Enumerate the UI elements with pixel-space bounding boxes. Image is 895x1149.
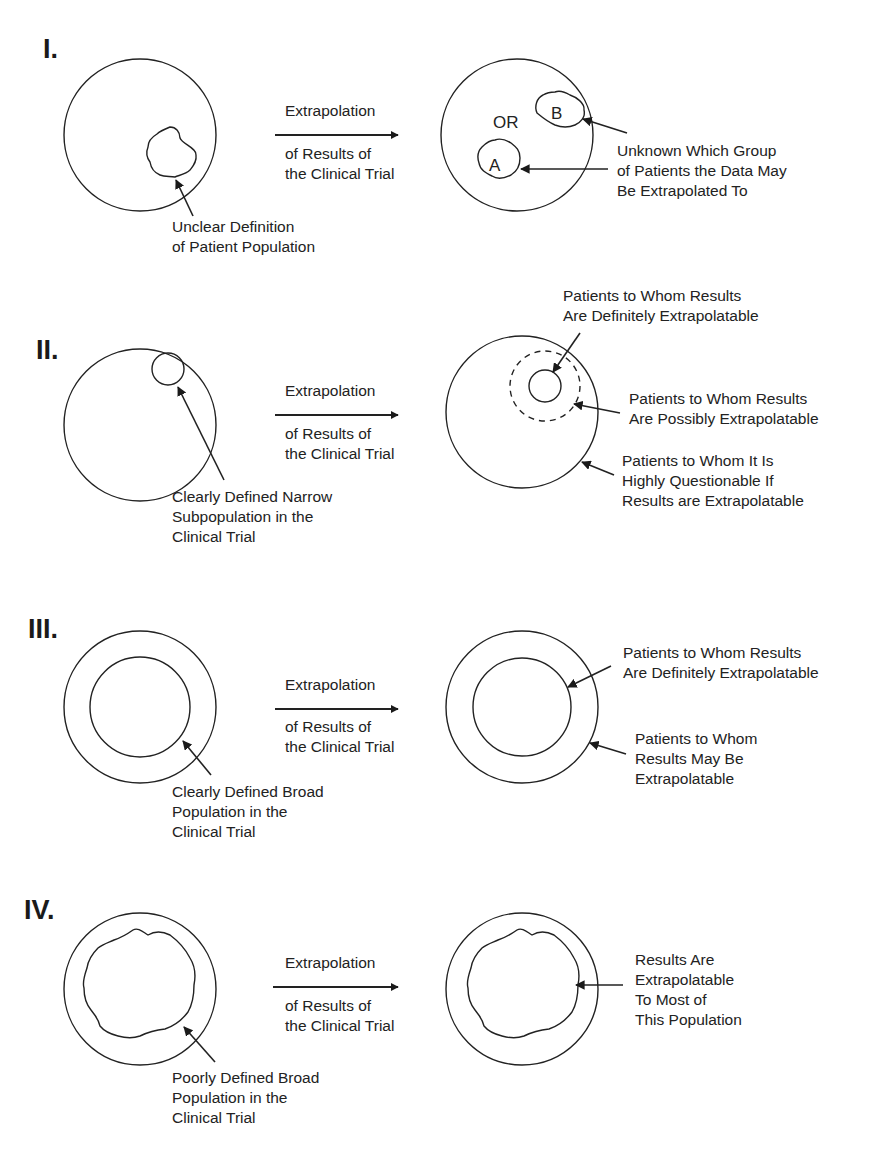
panel-1-graphics bbox=[64, 59, 627, 216]
panel-4-graphics bbox=[64, 913, 623, 1065]
target-population-circle bbox=[441, 59, 593, 211]
panel-numeral-3: III. bbox=[28, 614, 58, 645]
or-label: OR bbox=[493, 113, 519, 133]
may-be-extrapolatable-label: Patients to Whom Results May Be Extrapol… bbox=[635, 729, 757, 789]
unclear-population-blob bbox=[147, 127, 196, 177]
arrow-label-top: Extrapolation bbox=[285, 101, 375, 121]
broad-population-inner-circle bbox=[90, 657, 190, 757]
arrow-label-bottom: of Results of the Clinical Trial bbox=[285, 424, 394, 464]
possible-zone-dashed-circle bbox=[510, 351, 580, 421]
arrow-label-top: Extrapolation bbox=[285, 675, 375, 695]
target-inner-circle bbox=[473, 658, 571, 756]
pointer-arrow bbox=[583, 119, 627, 133]
left-caption: Clearly Defined Narrow Subpopulation in … bbox=[172, 487, 332, 547]
definite-zone-circle bbox=[529, 370, 561, 402]
population-outer-circle bbox=[64, 913, 216, 1065]
target-outer-circle bbox=[446, 631, 598, 783]
left-caption: Poorly Defined Broad Population in the C… bbox=[172, 1068, 319, 1128]
arrow-label-bottom: of Results of the Clinical Trial bbox=[285, 144, 394, 184]
population-circle bbox=[64, 59, 216, 211]
most-extrapolatable-label: Results Are Extrapolatable To Most of Th… bbox=[635, 950, 742, 1030]
pointer-arrow bbox=[582, 462, 614, 475]
arrow-label-top: Extrapolation bbox=[285, 381, 375, 401]
pointer-arrow bbox=[183, 741, 211, 775]
pointer-arrow bbox=[184, 1027, 215, 1062]
narrow-subpopulation-circle bbox=[152, 353, 184, 385]
group-a-label: A bbox=[489, 156, 500, 176]
population-circle bbox=[64, 349, 216, 501]
possibly-extrapolatable-label: Patients to Whom Results Are Possibly Ex… bbox=[629, 389, 819, 429]
population-outer-circle bbox=[64, 631, 216, 783]
target-outer-circle bbox=[446, 913, 598, 1065]
arrow-label-bottom: of Results of the Clinical Trial bbox=[285, 996, 394, 1036]
arrow-label-top: Extrapolation bbox=[285, 953, 375, 973]
pointer-arrow bbox=[574, 404, 620, 413]
left-caption: Clearly Defined Broad Population in the … bbox=[172, 782, 324, 842]
group-b-label: B bbox=[551, 104, 562, 124]
right-caption: Unknown Which Group of Patients the Data… bbox=[617, 141, 787, 201]
panel-3-graphics bbox=[64, 631, 626, 783]
questionable-extrapolatable-label: Patients to Whom It Is Highly Questionab… bbox=[622, 451, 804, 511]
poorly-defined-blob bbox=[83, 929, 195, 1038]
definitely-extrapolatable-label: Patients to Whom Results Are Definitely … bbox=[563, 286, 759, 326]
arrow-label-bottom: of Results of the Clinical Trial bbox=[285, 717, 394, 757]
left-caption: Unclear Definition of Patient Population bbox=[172, 217, 315, 257]
pointer-arrow bbox=[568, 666, 611, 687]
panel-numeral-1: I. bbox=[43, 34, 58, 65]
panel-numeral-2: II. bbox=[36, 335, 59, 366]
pointer-arrow bbox=[178, 387, 224, 480]
pointer-arrow bbox=[590, 743, 626, 754]
pointer-arrow bbox=[176, 180, 193, 216]
extrapolatable-blob bbox=[467, 929, 579, 1038]
panel-numeral-4: IV. bbox=[24, 895, 55, 926]
panel-2-graphics bbox=[64, 333, 620, 501]
definitely-extrapolatable-label: Patients to Whom Results Are Definitely … bbox=[623, 643, 819, 683]
